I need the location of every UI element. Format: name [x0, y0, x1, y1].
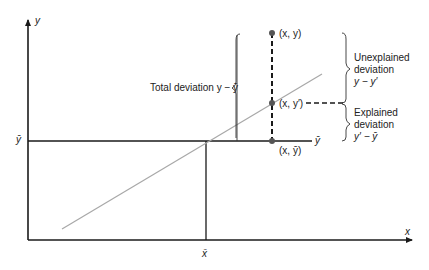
explained-brace: [342, 104, 350, 141]
explained-title: Explained: [354, 107, 398, 118]
y-mean-right-label: ȳ: [315, 135, 320, 146]
mean-point-label: (x, ȳ): [279, 145, 301, 156]
predicted-point-label: (x, y′): [279, 98, 303, 109]
unexplained-title: Unexplained: [354, 52, 410, 63]
unexplained-formula: y − y′: [354, 76, 377, 87]
observed-point: [269, 30, 275, 36]
explained-formula: y′ − ȳ: [354, 131, 377, 142]
predicted-point: [269, 100, 275, 106]
y-mean-axis-label: ȳ: [16, 134, 21, 145]
observed-point-label: (x, y): [279, 28, 301, 39]
regression-deviation-diagram: y x ȳ x̄ ȳ (x, y) (x, y′) (x, ȳ) Total d…: [0, 0, 429, 270]
unexplained-subtitle: deviation: [354, 64, 394, 75]
explained-subtitle: deviation: [354, 119, 394, 130]
x-axis-label: x: [405, 226, 410, 237]
total-deviation-label: Total deviation y − ȳ: [150, 82, 238, 93]
mean-point: [269, 138, 275, 144]
unexplained-brace: [342, 33, 350, 103]
x-mean-axis-label: x̄: [202, 248, 207, 259]
y-axis-label: y: [35, 15, 40, 26]
